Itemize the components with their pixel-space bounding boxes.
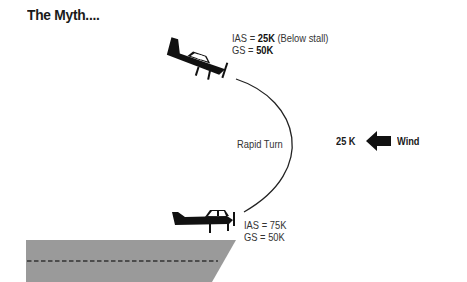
runway [26,240,236,282]
bottom-aircraft-gs: GS = 50K [244,231,285,243]
wind-speed: 25 K [336,135,356,147]
bottom-aircraft-ias: IAS = 75K [244,219,286,231]
airplane-icon-top [163,37,231,84]
turn-label: Rapid Turn [237,138,283,150]
top-aircraft-ias: IAS = 25K (Below stall) [232,32,328,44]
airplane-icon-bottom [172,210,235,233]
top-aircraft-gs: GS = 50K [232,44,273,56]
wind-label: Wind [397,135,420,147]
arrow-left-icon [366,131,391,151]
